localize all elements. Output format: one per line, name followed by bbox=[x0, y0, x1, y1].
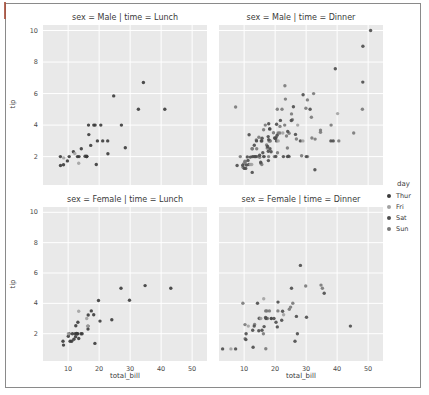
legend: day ThurFriSatSun bbox=[387, 180, 411, 234]
data-point bbox=[90, 309, 93, 312]
data-point bbox=[87, 313, 90, 316]
data-point bbox=[59, 155, 62, 158]
data-point bbox=[256, 302, 259, 305]
data-point bbox=[282, 155, 285, 158]
legend-label: Thur bbox=[396, 192, 411, 200]
data-point bbox=[268, 309, 271, 312]
legend-item: Sat bbox=[387, 212, 411, 223]
data-point bbox=[247, 133, 250, 136]
data-point bbox=[352, 131, 355, 134]
data-point bbox=[79, 332, 82, 335]
data-point bbox=[86, 324, 89, 327]
data-point bbox=[291, 302, 294, 305]
data-point bbox=[272, 131, 275, 134]
data-point bbox=[336, 112, 339, 115]
data-point bbox=[120, 123, 123, 126]
data-point bbox=[268, 127, 271, 130]
data-point bbox=[280, 319, 283, 322]
data-point bbox=[258, 154, 261, 157]
legend-label: Fri bbox=[396, 203, 404, 211]
data-point bbox=[262, 332, 265, 335]
data-point bbox=[68, 155, 71, 158]
data-point bbox=[304, 284, 307, 287]
data-point bbox=[76, 321, 79, 324]
data-point bbox=[278, 125, 281, 128]
data-point bbox=[62, 343, 65, 346]
data-point bbox=[267, 155, 270, 158]
data-point bbox=[276, 300, 279, 303]
data-point bbox=[260, 329, 263, 332]
data-point bbox=[235, 164, 238, 167]
data-point bbox=[61, 340, 64, 343]
data-point bbox=[62, 156, 65, 159]
data-point bbox=[280, 108, 283, 111]
legend-item: Sun bbox=[387, 223, 411, 234]
data-point bbox=[267, 159, 270, 162]
data-point bbox=[266, 145, 269, 148]
data-point bbox=[67, 332, 70, 335]
data-point bbox=[349, 324, 352, 327]
data-point bbox=[262, 297, 265, 300]
data-point bbox=[95, 163, 98, 166]
data-point bbox=[308, 108, 311, 111]
data-point bbox=[301, 93, 304, 96]
data-point bbox=[59, 164, 62, 167]
data-point bbox=[137, 108, 140, 111]
data-point bbox=[106, 152, 109, 155]
data-point bbox=[301, 139, 304, 142]
data-point bbox=[281, 131, 284, 134]
legend-items: ThurFriSatSun bbox=[387, 190, 411, 234]
data-point bbox=[244, 332, 247, 335]
data-point bbox=[276, 151, 279, 154]
data-point bbox=[119, 287, 122, 290]
x-axis-label-left: total_bill bbox=[43, 372, 207, 380]
y-tick-label: 8 bbox=[34, 239, 38, 247]
data-point bbox=[260, 139, 263, 142]
scatter-panel bbox=[43, 207, 207, 361]
data-point bbox=[244, 338, 247, 341]
data-point bbox=[85, 317, 88, 320]
data-point bbox=[255, 139, 258, 142]
data-point bbox=[283, 123, 286, 126]
data-point bbox=[163, 108, 166, 111]
facet-title: sex = Female | time = Dinner bbox=[219, 194, 383, 205]
data-point bbox=[124, 146, 127, 149]
data-point bbox=[286, 130, 289, 133]
data-point bbox=[259, 161, 262, 164]
data-point bbox=[361, 45, 364, 48]
data-point bbox=[319, 283, 322, 286]
data-point bbox=[83, 155, 86, 158]
data-point bbox=[72, 338, 75, 341]
data-point bbox=[257, 136, 260, 139]
y-axis-label-bottom: tip bbox=[9, 279, 17, 288]
scatter-panel bbox=[43, 25, 207, 185]
data-point bbox=[267, 135, 270, 138]
data-point bbox=[77, 337, 80, 340]
data-point bbox=[267, 122, 270, 125]
data-point bbox=[221, 347, 224, 350]
data-point bbox=[306, 98, 309, 101]
data-point bbox=[241, 164, 244, 167]
y-tick-label: 10 bbox=[30, 27, 38, 35]
data-point bbox=[74, 324, 77, 327]
data-point bbox=[87, 123, 90, 126]
data-point bbox=[337, 139, 340, 142]
data-point bbox=[77, 155, 80, 158]
data-point bbox=[264, 317, 267, 320]
data-point bbox=[305, 155, 308, 158]
data-point bbox=[290, 119, 293, 122]
data-point bbox=[247, 324, 250, 327]
data-point bbox=[234, 347, 237, 350]
y-tick-label: 4 bbox=[34, 121, 38, 129]
data-point bbox=[285, 134, 288, 137]
x-axis-label-right: total_bill bbox=[219, 372, 383, 380]
data-point bbox=[312, 92, 315, 95]
legend-item: Thur bbox=[387, 190, 411, 201]
facet-title: sex = Female | time = Lunch bbox=[43, 194, 207, 205]
data-point bbox=[275, 123, 278, 126]
data-point bbox=[361, 80, 364, 83]
data-point bbox=[264, 123, 267, 126]
legend-marker-dot-icon bbox=[387, 227, 391, 231]
data-point bbox=[128, 299, 131, 302]
data-point bbox=[290, 112, 293, 115]
